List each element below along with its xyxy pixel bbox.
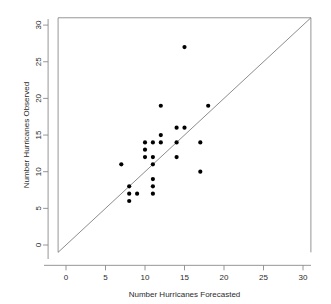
- x-tick-label: 25: [259, 273, 268, 282]
- data-point: [151, 155, 155, 159]
- x-tick-label: 15: [180, 273, 189, 282]
- x-axis-title: Number Hurricanes Forecasted: [129, 290, 241, 299]
- data-point: [119, 162, 123, 166]
- data-point: [151, 184, 155, 188]
- y-tick-label: 15: [34, 130, 43, 139]
- y-axis-title: Number Hurricanes Observed: [22, 82, 31, 188]
- identity-reference-line: [58, 18, 311, 253]
- y-tick-label: 30: [34, 20, 43, 29]
- data-point: [151, 177, 155, 181]
- data-point: [151, 192, 155, 196]
- data-point: [159, 104, 163, 108]
- y-tick-label: 0: [34, 242, 43, 247]
- data-point: [127, 199, 131, 203]
- x-tick-label: 20: [220, 273, 229, 282]
- data-point: [175, 140, 179, 144]
- y-tick-label: 20: [34, 93, 43, 102]
- data-point: [143, 140, 147, 144]
- data-point: [143, 148, 147, 152]
- x-tick-label: 5: [103, 273, 108, 282]
- x-tick-label: 0: [64, 273, 69, 282]
- y-tick-label: 25: [34, 57, 43, 66]
- plot-canvas: 051015202530051015202530Number Hurricane…: [0, 0, 331, 304]
- data-point: [198, 170, 202, 174]
- data-point: [135, 192, 139, 196]
- data-point: [127, 184, 131, 188]
- data-point: [151, 162, 155, 166]
- data-point: [151, 140, 155, 144]
- x-tick-label: 10: [141, 273, 150, 282]
- data-point: [182, 45, 186, 49]
- y-tick-label: 10: [34, 167, 43, 176]
- x-tick-label: 30: [299, 273, 308, 282]
- scatter-plot-figure: 051015202530051015202530Number Hurricane…: [0, 0, 331, 304]
- data-point: [182, 126, 186, 130]
- data-point: [175, 126, 179, 130]
- data-point: [159, 140, 163, 144]
- data-point: [206, 104, 210, 108]
- data-point: [159, 133, 163, 137]
- data-point: [127, 192, 131, 196]
- data-point: [198, 140, 202, 144]
- data-point: [143, 155, 147, 159]
- data-point: [175, 155, 179, 159]
- y-tick-label: 5: [34, 206, 43, 211]
